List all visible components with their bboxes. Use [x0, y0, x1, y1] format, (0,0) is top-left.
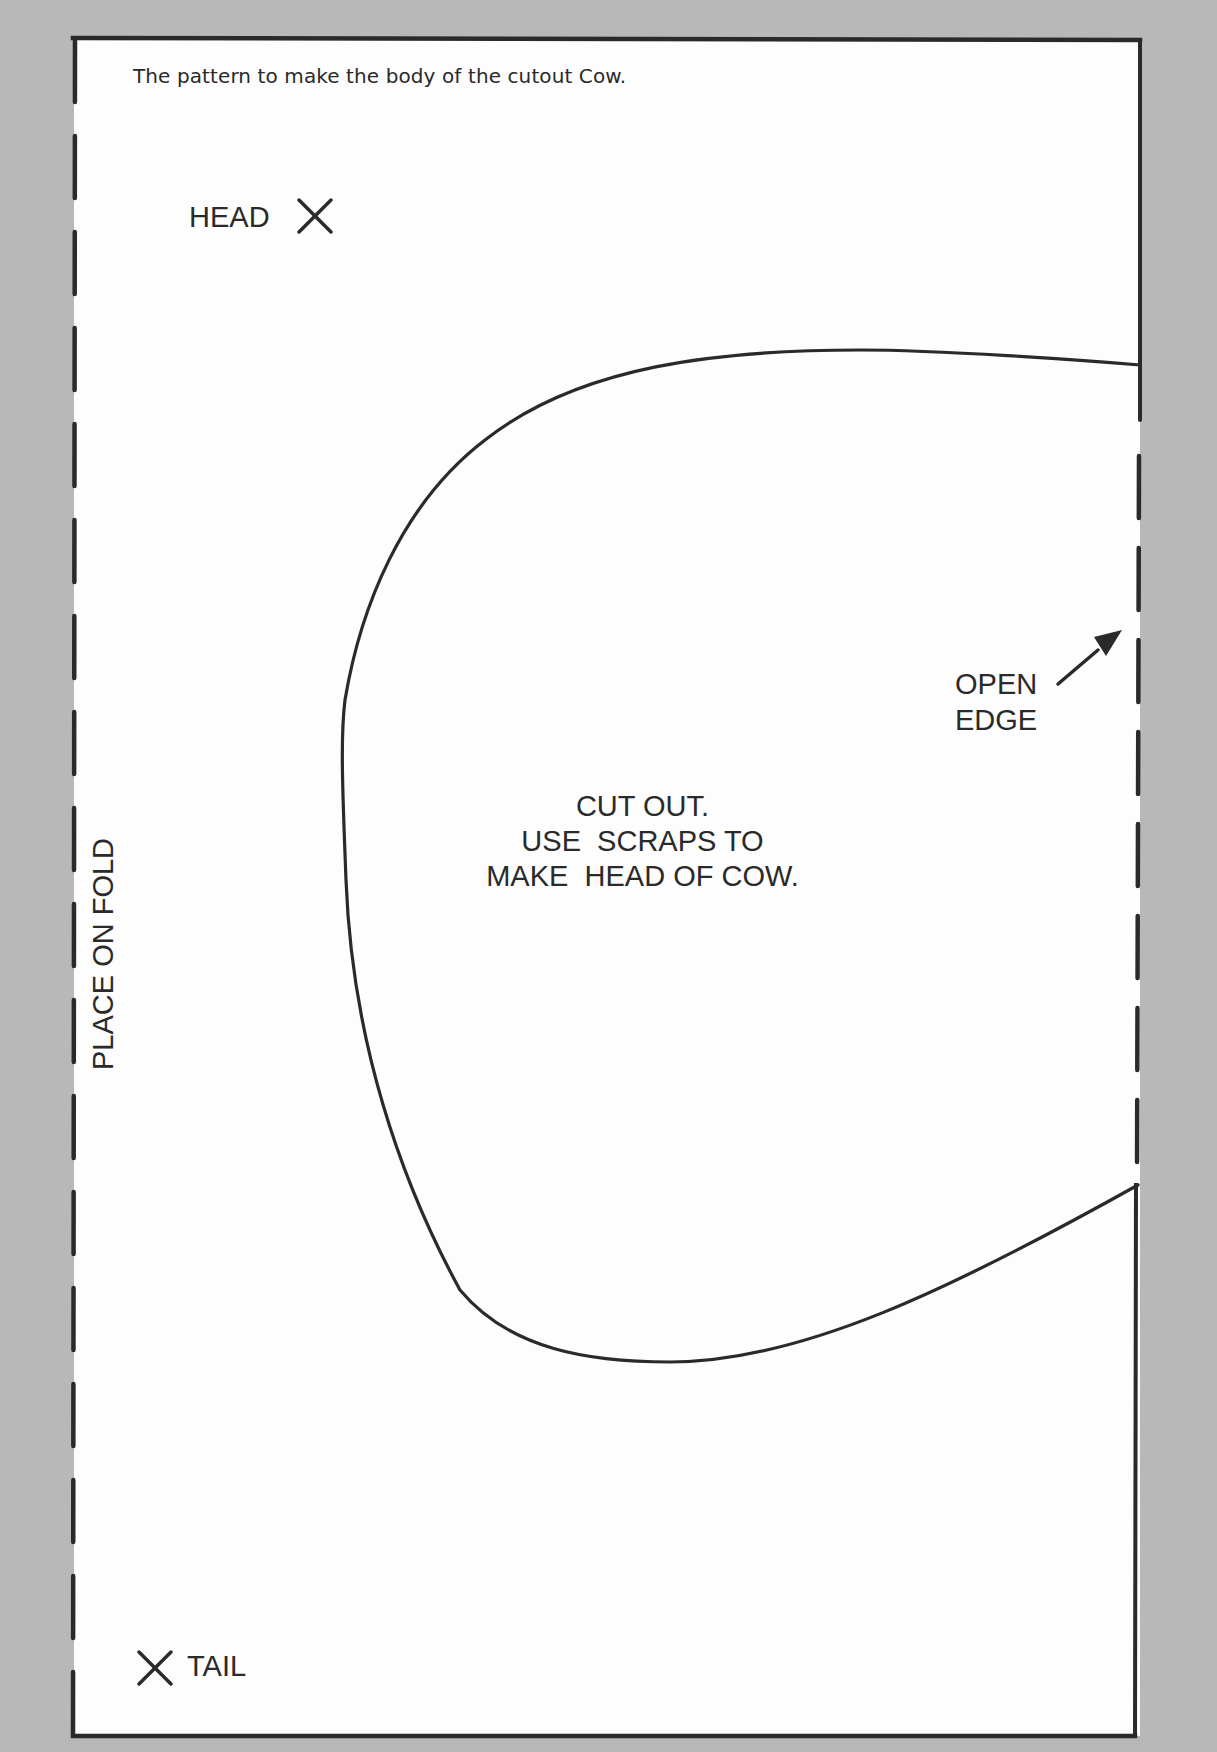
- head-label: HEAD: [189, 203, 270, 232]
- open-edge-line-2: EDGE: [955, 702, 1037, 738]
- top-border: [73, 38, 1140, 40]
- instructions-line-1: CUT OUT.: [440, 789, 845, 824]
- x-mark-icon: [135, 1648, 175, 1688]
- x-mark-icon: [295, 196, 335, 236]
- pattern-caption: The pattern to make the body of the cuto…: [133, 64, 626, 88]
- instructions-line-2: USE SCRAPS TO: [440, 824, 845, 859]
- fold-label: PLACE ON FOLD: [89, 838, 118, 1070]
- open-edge-line-1: OPEN: [955, 666, 1037, 702]
- right-border-dashed-open-edge: [1137, 456, 1139, 1180]
- right-border-bottom: [1135, 1185, 1136, 1736]
- arrow-up-right-icon: [1058, 630, 1122, 684]
- tail-label: TAIL: [187, 1652, 246, 1681]
- instructions-line-3: MAKE HEAD OF COW.: [440, 859, 845, 894]
- fold-line-dashed: [73, 40, 75, 1736]
- open-edge-label: OPEN EDGE: [955, 666, 1037, 738]
- cut-instructions: CUT OUT. USE SCRAPS TO MAKE HEAD OF COW.: [440, 789, 845, 894]
